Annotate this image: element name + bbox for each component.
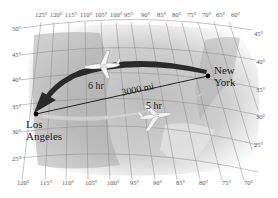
- svg-text:85°: 85°: [176, 179, 186, 186]
- los-angeles-label-line2: Angeles: [26, 130, 62, 142]
- westbound-time-label: 6 hr: [88, 80, 105, 91]
- svg-text:105°: 105°: [85, 179, 98, 186]
- svg-text:95°: 95°: [124, 11, 134, 18]
- eastbound-time-label: 5 hr: [146, 100, 163, 111]
- latitude-labels-left: 50° 45° 40° 35° 30° 25°: [12, 25, 22, 162]
- longitude-labels-top: 125° 120° 115° 110° 105° 100° 95° 90° 85…: [35, 11, 241, 18]
- svg-text:95°: 95°: [130, 179, 140, 186]
- svg-text:120°: 120°: [17, 179, 30, 186]
- new-york-label-line1: New: [214, 64, 235, 76]
- longitude-labels-bottom: 120° 115° 110° 105° 100° 95° 90° 85° 80°…: [17, 179, 254, 186]
- svg-text:105°: 105°: [95, 11, 108, 18]
- los-angeles-label-line1: Los: [26, 118, 43, 130]
- svg-text:80°: 80°: [199, 179, 209, 186]
- svg-text:115°: 115°: [40, 179, 53, 186]
- new-york-marker: [206, 74, 211, 79]
- svg-text:125°: 125°: [35, 11, 48, 18]
- svg-text:110°: 110°: [80, 11, 93, 18]
- svg-text:25°: 25°: [12, 155, 22, 162]
- svg-text:45°: 45°: [254, 30, 264, 37]
- svg-text:60°: 60°: [231, 11, 241, 18]
- svg-text:40°: 40°: [256, 58, 266, 65]
- svg-text:35°: 35°: [256, 86, 266, 93]
- svg-text:115°: 115°: [65, 11, 78, 18]
- svg-text:90°: 90°: [153, 179, 163, 186]
- svg-text:35°: 35°: [12, 103, 22, 110]
- svg-text:110°: 110°: [62, 179, 75, 186]
- svg-text:65°: 65°: [216, 11, 226, 18]
- svg-text:120°: 120°: [50, 11, 63, 18]
- svg-text:75°: 75°: [222, 179, 232, 186]
- svg-text:100°: 100°: [107, 179, 120, 186]
- svg-text:50°: 50°: [12, 25, 22, 32]
- svg-text:100°: 100°: [110, 11, 123, 18]
- new-york-label-line2: York: [214, 76, 236, 88]
- svg-text:75°: 75°: [187, 11, 197, 18]
- los-angeles-marker: [34, 112, 39, 117]
- svg-text:70°: 70°: [202, 11, 212, 18]
- flight-map: 125° 120° 115° 110° 105° 100° 95° 90° 85…: [0, 0, 278, 198]
- svg-text:80°: 80°: [172, 11, 182, 18]
- svg-text:30°: 30°: [12, 128, 22, 135]
- svg-text:30°: 30°: [256, 113, 266, 120]
- svg-text:85°: 85°: [157, 11, 167, 18]
- svg-text:45°: 45°: [12, 51, 22, 58]
- svg-text:40°: 40°: [12, 76, 22, 83]
- svg-text:70°: 70°: [244, 179, 254, 186]
- svg-text:90°: 90°: [141, 11, 151, 18]
- svg-text:25°: 25°: [254, 141, 264, 148]
